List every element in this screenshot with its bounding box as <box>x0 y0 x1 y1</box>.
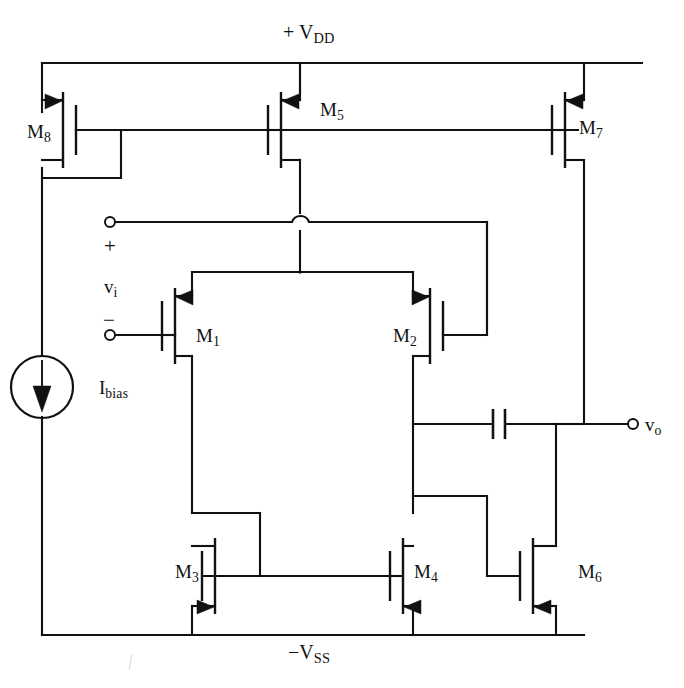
vi-plus-sign: + <box>104 236 116 257</box>
m8-bulk-arrow <box>45 94 62 109</box>
vdd-rail-group <box>42 63 642 93</box>
wire-hop-over-input <box>292 216 309 222</box>
transistor-m5 <box>268 63 309 272</box>
m5-bulk-arrow <box>282 94 299 109</box>
vss-label: −VSS <box>288 642 330 665</box>
label-m1: M1 <box>196 326 220 349</box>
transistor-m2 <box>412 222 487 513</box>
transistor-m8 <box>42 92 121 178</box>
label-m4: M4 <box>414 562 438 585</box>
m3-bulk-arrow <box>197 600 214 614</box>
transistor-m1 <box>162 288 193 513</box>
label-vi: vi <box>104 277 118 300</box>
m1-bulk-arrow <box>176 290 193 305</box>
label-vo: vo <box>645 415 662 438</box>
output-section <box>584 419 638 429</box>
label-m6: M6 <box>578 562 602 585</box>
vi-minus-sign: − <box>103 310 115 331</box>
diffpair-common-source <box>192 272 413 296</box>
circuit-schematic: + VDD −VSS M8 M5 M7 M1 M2 M3 M4 M6 Ibias… <box>0 0 684 688</box>
label-m5: M5 <box>320 100 344 123</box>
vo-terminal-circle <box>628 419 638 429</box>
vdd-label: + VDD <box>283 22 335 45</box>
label-m3: M3 <box>175 562 199 585</box>
m6-bulk-arrow <box>534 600 551 614</box>
m7-bulk-arrow <box>566 94 583 109</box>
compensation-capacitor <box>413 409 584 439</box>
label-m8: M8 <box>27 122 51 145</box>
transistor-m3 <box>192 513 260 635</box>
transistor-m4 <box>390 538 421 635</box>
ibias-arrow-head <box>33 386 51 412</box>
vi-plus-terminal-circle <box>105 217 115 227</box>
label-m2: M2 <box>393 326 417 349</box>
ibias-current-source <box>11 356 73 418</box>
m2-bulk-arrow <box>412 290 429 305</box>
m8-diode-connect <box>42 130 121 178</box>
label-ibias: Ibias <box>99 378 128 401</box>
transistor-m6 <box>520 424 584 635</box>
label-m7: M7 <box>579 118 603 141</box>
